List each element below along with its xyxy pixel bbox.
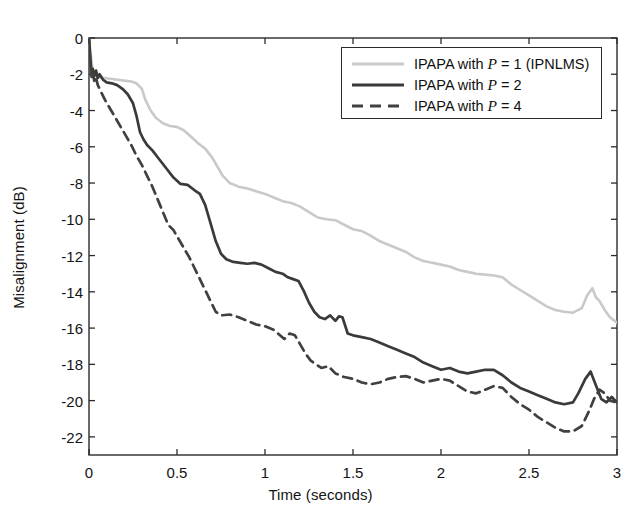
y-tick--10: -10: [35, 211, 83, 228]
y-tick--16: -16: [35, 320, 83, 337]
x-tick-0: 0: [85, 464, 93, 481]
x-tick-1: 1: [261, 464, 269, 481]
legend-item-p1: IPAPA with P = 1 (IPNLMS): [342, 53, 601, 74]
y-tick--6: -6: [35, 138, 83, 155]
x-tick-2: 2: [437, 464, 445, 481]
chart-figure: Misalignment (dB) Time (seconds) 0-2-4-6…: [0, 0, 641, 524]
x-tick-3: 3: [613, 464, 621, 481]
y-tick--2: -2: [35, 66, 83, 83]
legend-item-p4: IPAPA with P = 4: [342, 95, 601, 116]
x-axis-label: Time (seconds): [0, 486, 641, 503]
y-tick--12: -12: [35, 247, 83, 264]
y-tick--8: -8: [35, 175, 83, 192]
x-tick-1.5: 1.5: [343, 464, 364, 481]
y-axis-label: Misalignment (dB): [10, 186, 27, 309]
x-tick-2.5: 2.5: [519, 464, 540, 481]
legend-swatch-solid-dark: [350, 79, 406, 91]
y-tick--14: -14: [35, 283, 83, 300]
legend-label-p2: IPAPA with P = 2: [414, 77, 522, 93]
legend-swatch-dashed-dark: [350, 100, 406, 112]
y-tick--22: -22: [35, 428, 83, 445]
y-tick-0: 0: [35, 30, 83, 47]
legend-label-p1: IPAPA with P = 1 (IPNLMS): [414, 56, 589, 72]
y-tick--18: -18: [35, 356, 83, 373]
chart-legend: IPAPA with P = 1 (IPNLMS) IPAPA with P =…: [341, 47, 602, 119]
x-tick-0.5: 0.5: [167, 464, 188, 481]
y-axis-label-wrapper: Misalignment (dB): [0, 0, 36, 495]
y-tick--20: -20: [35, 392, 83, 409]
legend-item-p2: IPAPA with P = 2: [342, 74, 601, 95]
legend-swatch-solid-grey: [350, 58, 406, 70]
legend-label-p4: IPAPA with P = 4: [414, 98, 522, 114]
y-tick--4: -4: [35, 102, 83, 119]
